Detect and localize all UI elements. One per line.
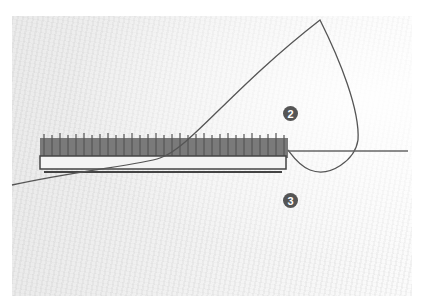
stitch-illustration [0, 0, 426, 307]
step-marker-2: 2 [283, 106, 298, 121]
step-marker-3: 3 [283, 193, 298, 208]
stitch-band [40, 133, 288, 172]
